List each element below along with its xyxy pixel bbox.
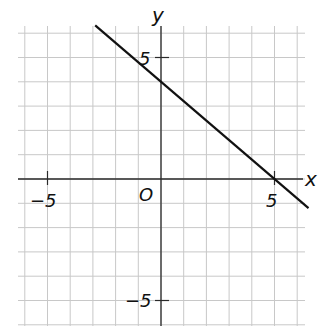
x-tick-label-neg5: −5 [30, 190, 57, 211]
data-line [95, 25, 308, 208]
y-axis-label: y [151, 3, 165, 27]
y-tick-label-neg5: −5 [125, 290, 152, 311]
y-tick-label-5: 5 [139, 48, 150, 69]
origin-label: O [139, 184, 153, 205]
x-axis-label: x [304, 167, 317, 191]
coordinate-plane: x y O −5 5 5 −5 [0, 0, 320, 326]
x-tick-label-5: 5 [266, 190, 277, 211]
